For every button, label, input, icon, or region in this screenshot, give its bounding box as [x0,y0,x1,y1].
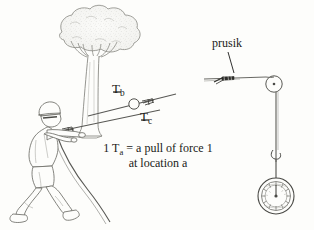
person-shoe-back [10,214,28,223]
force-caption: 1 Ta = a pull of force 1 at location a [96,141,220,171]
pulley-axle [273,83,276,86]
person-hand-back [71,138,77,142]
caption-line-2: at location a [96,156,220,171]
gauge-hub [274,194,277,197]
figure-illustration [0,0,314,230]
caption-line-1: 1 Ta = a pull of force 1 [103,141,212,155]
pulley-circle-left [129,99,139,109]
label-tb: Tb [112,82,125,96]
rope-over-pulley [266,77,274,78]
label-tc-text: Tc [140,109,152,124]
label-tc: Tc [140,110,152,124]
label-prusik: prusik [212,37,242,50]
label-tb-text: Tb [112,81,125,96]
person-shorts [32,166,54,188]
person-hand-front [79,133,86,138]
